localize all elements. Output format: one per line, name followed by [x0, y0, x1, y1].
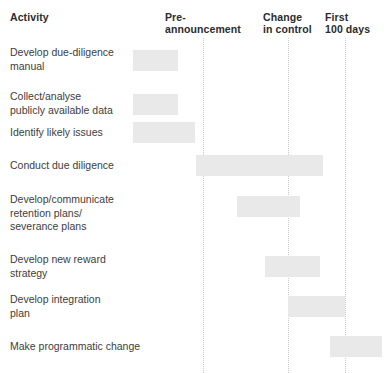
gantt-bar [288, 296, 345, 317]
row-label: Identify likely issues [10, 126, 103, 140]
gantt-bar [133, 50, 178, 71]
plot-area: Develop due-diligence manual Collect/ana… [0, 38, 391, 373]
gridline-pre-announcement [203, 38, 205, 373]
row-label: Develop integration plan [10, 293, 100, 320]
column-header-activity: Activity [10, 11, 49, 23]
row-label: Conduct due diligence [10, 159, 114, 173]
gantt-bar [196, 155, 323, 176]
row-label: Collect/analyse publicly available data [10, 90, 113, 117]
row-label: Develop due-diligence manual [10, 46, 114, 73]
gridline-first-100-days [345, 38, 347, 373]
gantt-chart: Activity Pre- announcement Change in con… [0, 0, 391, 373]
column-header-pre-announcement: Pre- announcement [165, 11, 241, 36]
column-header-change-in-control: Change in control [263, 11, 312, 36]
column-header-first-100-days: First 100 days [325, 11, 370, 36]
gantt-bar [133, 94, 178, 115]
chart-header: Activity Pre- announcement Change in con… [0, 0, 391, 38]
gantt-bar [265, 256, 320, 277]
gantt-bar [237, 196, 300, 217]
row-label: Develop/communicate retention plans/ sev… [10, 193, 114, 234]
gantt-bar [133, 122, 195, 143]
gantt-bar [330, 336, 382, 357]
row-label: Develop new reward strategy [10, 253, 106, 280]
row-label: Make programmatic change [10, 340, 140, 354]
